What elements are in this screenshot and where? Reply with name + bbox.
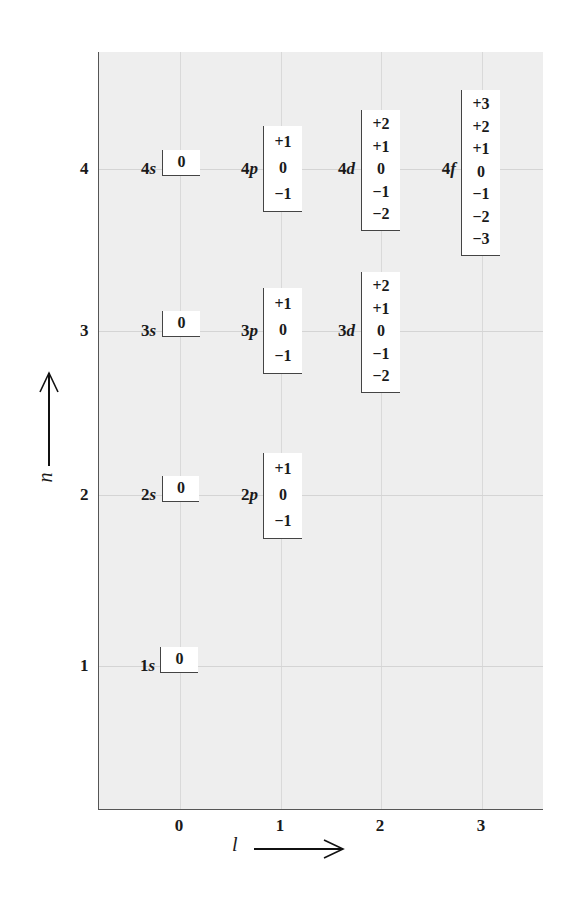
x-axis-arrow-icon — [252, 838, 347, 860]
ml-value: +2 — [362, 275, 400, 298]
ml-value: +1 — [264, 129, 302, 155]
ml-value: −3 — [462, 228, 500, 251]
ml-value: −2 — [362, 203, 400, 226]
ml-box-2s: 0 — [162, 476, 199, 502]
orbital-label-3d: 3d — [338, 321, 355, 341]
ml-value: −2 — [462, 206, 500, 229]
ml-value: −1 — [362, 343, 400, 366]
y-tick-1: 1 — [80, 656, 89, 676]
y-axis-arrow-icon — [38, 370, 60, 468]
x-tick-1: 1 — [276, 816, 285, 836]
orbital-label-4p: 4p — [241, 159, 258, 179]
ml-value: 0 — [161, 650, 198, 668]
ml-value: +1 — [462, 138, 500, 161]
x-axis-label: l — [232, 833, 238, 856]
y-tick-3: 3 — [80, 321, 89, 341]
orbital-label-3s: 3s — [141, 321, 156, 341]
ml-value: +1 — [264, 456, 302, 482]
ml-value: 0 — [163, 314, 200, 332]
ml-box-2p: +1 0 −1 — [263, 453, 302, 539]
ml-value: −2 — [362, 365, 400, 388]
ml-box-4s: 0 — [162, 150, 200, 176]
ml-value: +2 — [462, 116, 500, 139]
ml-value: −1 — [264, 181, 302, 207]
x-tick-3: 3 — [477, 816, 486, 836]
orbital-label-4s: 4s — [141, 159, 156, 179]
ml-value: 0 — [362, 158, 400, 181]
ml-value: −1 — [264, 343, 302, 369]
ml-value: −1 — [264, 508, 302, 534]
y-axis-label: n — [34, 473, 57, 483]
ml-value: +1 — [362, 298, 400, 321]
ml-value: −1 — [462, 183, 500, 206]
x-tick-0: 0 — [175, 816, 184, 836]
ml-box-1s: 0 — [160, 647, 198, 673]
ml-value: 0 — [163, 153, 200, 171]
ml-value: −1 — [362, 181, 400, 204]
ml-box-4p: +1 0 −1 — [263, 126, 302, 212]
ml-box-3d: +2 +1 0 −1 −2 — [361, 272, 400, 393]
orbital-label-2s: 2s — [141, 485, 156, 505]
y-tick-4: 4 — [80, 159, 89, 179]
ml-value: +2 — [362, 113, 400, 136]
ml-value: 0 — [264, 317, 302, 343]
ml-box-4d: +2 +1 0 −1 −2 — [361, 110, 400, 231]
orbital-label-4f: 4f — [442, 159, 456, 179]
ml-value: 0 — [462, 161, 500, 184]
ml-box-3s: 0 — [162, 311, 200, 337]
orbital-label-4d: 4d — [338, 159, 355, 179]
ml-value: 0 — [264, 155, 302, 181]
ml-box-4f: +3 +2 +1 0 −1 −2 −3 — [461, 90, 500, 256]
ml-value: +1 — [264, 291, 302, 317]
y-tick-2: 2 — [80, 485, 89, 505]
orbital-label-3p: 3p — [241, 321, 258, 341]
orbital-label-1s: 1s — [140, 656, 155, 676]
ml-value: +3 — [462, 93, 500, 116]
ml-value: +1 — [362, 136, 400, 159]
x-tick-2: 2 — [376, 816, 385, 836]
ml-value: 0 — [163, 479, 199, 497]
orbital-label-2p: 2p — [241, 485, 258, 505]
ml-box-3p: +1 0 −1 — [263, 288, 302, 374]
ml-value: 0 — [362, 320, 400, 343]
ml-value: 0 — [264, 482, 302, 508]
